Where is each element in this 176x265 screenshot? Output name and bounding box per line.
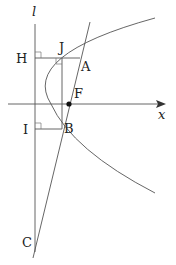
parabola-diagram: l H J A F I B C x (0, 0, 176, 265)
label-C: C (22, 236, 32, 249)
right-angle-H (35, 52, 41, 58)
label-x-axis: x (158, 108, 165, 121)
label-directrix: l (32, 5, 36, 18)
label-I: I (23, 123, 28, 136)
label-F: F (74, 87, 83, 100)
focus-point (66, 101, 71, 106)
right-angle-I (35, 123, 41, 129)
label-H: H (16, 52, 27, 65)
label-A: A (81, 60, 90, 73)
focal-chord-line (33, 22, 90, 258)
label-B: B (64, 122, 74, 135)
label-J: J (59, 41, 64, 54)
